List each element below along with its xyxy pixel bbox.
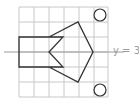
mirror-line-label: y = 3	[113, 45, 139, 56]
circle-top	[94, 9, 106, 21]
circle-bottom	[94, 84, 106, 96]
